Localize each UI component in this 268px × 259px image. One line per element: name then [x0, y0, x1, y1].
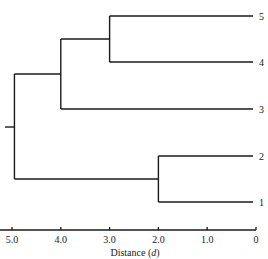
- leaf-label-4: 4: [259, 57, 264, 68]
- x-axis-tick-labels: 5.04.03.02.01.00: [6, 234, 259, 245]
- x-tick-label: 4.0: [55, 234, 68, 245]
- leaf-labels: 54321: [259, 11, 264, 208]
- dendrogram-chart: 54321 5.04.03.02.01.00 Distance (d): [0, 0, 268, 259]
- leaf-label-2: 2: [259, 151, 264, 162]
- leaf-label-1: 1: [259, 197, 264, 208]
- x-tick-label: 0: [254, 234, 259, 245]
- leaf-label-3: 3: [259, 104, 264, 115]
- x-tick-label: 2.0: [152, 234, 165, 245]
- x-axis: [0, 227, 256, 230]
- x-tick-label: 3.0: [103, 234, 116, 245]
- leaf-label-5: 5: [259, 11, 264, 22]
- x-axis-title: Distance (d): [110, 247, 159, 259]
- dendrogram-tree: [5, 16, 253, 202]
- x-tick-label: 1.0: [201, 234, 214, 245]
- x-tick-label: 5.0: [6, 234, 19, 245]
